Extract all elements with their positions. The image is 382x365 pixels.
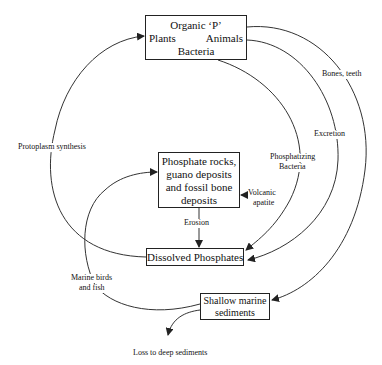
bones-teeth-arrow bbox=[247, 27, 366, 300]
loss-arrow bbox=[168, 310, 200, 335]
organic-p-node: Organic ‘P’ Plants Animals Bacteria bbox=[145, 15, 247, 60]
marine-birds-label-1: Marine birds bbox=[71, 274, 112, 283]
erosion-label: Erosion bbox=[184, 219, 209, 228]
phosphatizing-label-2: Bacteria bbox=[279, 163, 306, 172]
dissolved-label: Dissolved Phosphates bbox=[147, 251, 243, 263]
phosphate-rocks-node: Phosphate rocks, guano deposits and foss… bbox=[158, 152, 240, 208]
bacteria-label: Bacteria bbox=[146, 45, 246, 57]
organic-p-title: Organic ‘P’ bbox=[146, 19, 246, 31]
volcanic-label-1: Volcanic bbox=[248, 189, 276, 198]
phosphate-rocks-line3: and fossil bone bbox=[159, 181, 239, 193]
marine-birds-label-2: and fish bbox=[79, 284, 105, 293]
animals-label: Animals bbox=[206, 32, 243, 44]
phosphate-rocks-line1: Phosphate rocks, bbox=[159, 155, 239, 167]
loss-label: Loss to deep sediments bbox=[133, 349, 207, 358]
bones-teeth-label: Bones, teeth bbox=[322, 70, 362, 79]
plants-label: Plants bbox=[149, 32, 176, 44]
phosphatizing-label-1: Phosphatizing bbox=[270, 153, 315, 162]
shallow-line1: Shallow marine bbox=[201, 295, 269, 306]
dissolved-phosphates-node: Dissolved Phosphates bbox=[146, 248, 244, 266]
phosphate-rocks-line4: deposits bbox=[159, 194, 239, 206]
phosphate-rocks-line2: guano deposits bbox=[159, 168, 239, 180]
shallow-line2: sediments bbox=[201, 307, 269, 318]
shallow-marine-node: Shallow marine sediments bbox=[200, 293, 270, 320]
excretion-label: Excretion bbox=[314, 130, 345, 139]
volcanic-label-2: apatite bbox=[253, 199, 274, 208]
protoplasm-label: Protoplasm synthesis bbox=[18, 143, 86, 152]
